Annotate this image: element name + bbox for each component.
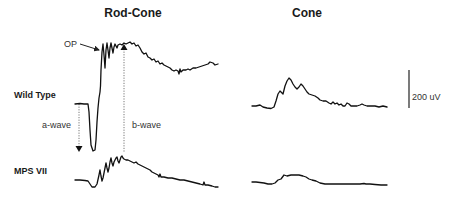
- row-label-wild-type: Wild Type: [14, 90, 56, 100]
- trace-wild-type-cone: [252, 78, 387, 109]
- op-label: OP: [64, 39, 77, 49]
- trace-mps-vii-rod-cone: [75, 156, 218, 187]
- row-label-mps-vii: MPS VII: [14, 166, 47, 176]
- panel-title-rod-cone: Rod-Cone: [104, 6, 162, 20]
- a-wave-label: a-wave: [42, 120, 71, 130]
- scale-bar-label: 200 uV: [412, 92, 441, 102]
- b-wave-label: b-wave: [132, 120, 161, 130]
- a-wave-arrowhead-icon: [76, 146, 83, 152]
- erg-figure: Rod-Cone Cone Wild Type MPS VII OP a-wav…: [0, 0, 453, 198]
- trace-mps-vii-cone: [252, 175, 387, 185]
- op-arrow-icon: [80, 44, 99, 50]
- trace-wild-type-rod-cone: [75, 42, 218, 151]
- panel-title-cone: Cone: [292, 6, 322, 20]
